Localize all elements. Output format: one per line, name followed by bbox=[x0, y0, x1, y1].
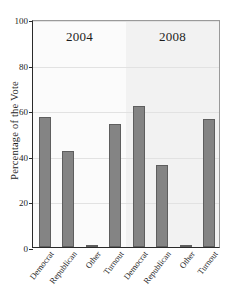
chart-figure: Percentage of the Vote 020406080100 2004… bbox=[0, 0, 230, 288]
x-axis-tick-labels: DemocratRepublicanOtherTurnoutDemocratRe… bbox=[32, 249, 220, 288]
bar-2004-other bbox=[86, 245, 98, 247]
plot-area: 020406080100 20042008 bbox=[32, 20, 220, 248]
bar-series bbox=[33, 21, 219, 247]
y-axis-title: Percentage of the Vote bbox=[9, 56, 20, 206]
bar-2004-turnout bbox=[109, 124, 121, 247]
bar-2008-democrat bbox=[133, 106, 145, 247]
bar-2008-other bbox=[180, 245, 192, 247]
bar-2008-turnout bbox=[203, 119, 215, 247]
chart-title-cropped bbox=[0, 0, 230, 6]
bar-2004-republican bbox=[62, 151, 74, 247]
bar-2004-democrat bbox=[39, 117, 51, 247]
bar-2008-republican bbox=[156, 165, 168, 247]
